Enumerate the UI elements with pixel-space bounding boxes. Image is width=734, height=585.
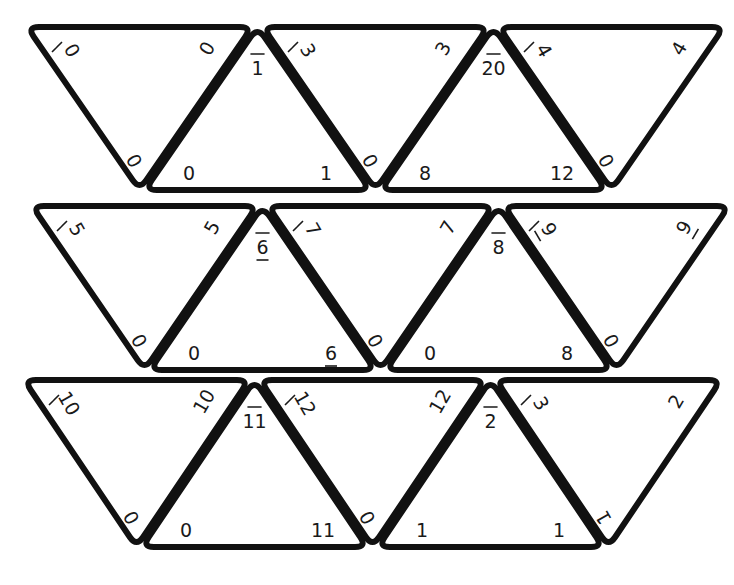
corner-number-bottom-right: 1 <box>320 162 332 184</box>
corner-number-bottom-left: 0 <box>188 342 200 364</box>
corner-number-top: 8 <box>492 236 504 258</box>
corner-number-bottom-right: 8 <box>561 342 573 364</box>
corner-number-bottom-left: 1 <box>416 519 428 541</box>
corner-number-bottom-right: 6 <box>325 342 337 364</box>
corner-number-top: 2 <box>484 410 496 432</box>
corner-number-top: 1 <box>251 57 263 79</box>
corner-number-bottom-right: 1 <box>553 519 565 541</box>
corner-number-bottom-right: 11 <box>311 519 335 541</box>
corner-number-top: 11 <box>242 410 266 432</box>
corner-number-bottom-left: 8 <box>419 162 431 184</box>
corner-number-bottom-right: 12 <box>550 162 574 184</box>
corner-number-top: 6 <box>256 236 268 258</box>
corner-number-bottom-left: 0 <box>183 162 195 184</box>
puzzle-board: 0001013302081244055060677080899010100110… <box>0 0 734 585</box>
corner-number-bottom-left: 0 <box>424 342 436 364</box>
corner-number-bottom-left: 0 <box>180 519 192 541</box>
corner-number-top: 20 <box>481 57 505 79</box>
